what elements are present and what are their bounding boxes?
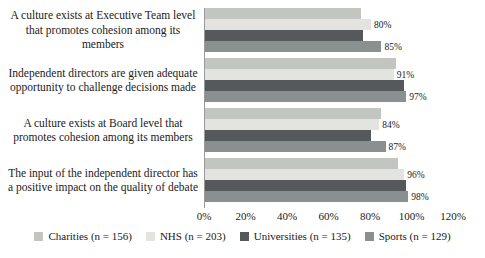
bar-charities <box>205 8 361 19</box>
data-label: 97% <box>409 92 426 102</box>
bar-nhs <box>205 119 379 130</box>
x-axis-tick: 40% <box>277 210 297 222</box>
bar-universities <box>205 80 404 91</box>
bar-row <box>205 108 454 119</box>
bar-group: 84%87% <box>205 108 454 152</box>
bar-universities <box>205 180 406 191</box>
bar-row <box>205 58 454 69</box>
bar-row: 84% <box>205 119 454 130</box>
x-axis: 0%20%40%60%80%100%120% <box>204 210 453 226</box>
bar-group: 96%98% <box>205 158 454 202</box>
x-axis-tick: 20% <box>235 210 255 222</box>
data-label: 96% <box>407 170 424 180</box>
bar-group: 80%85% <box>205 8 454 52</box>
legend-item: NHS (n = 203) <box>146 230 226 242</box>
bar-row <box>205 30 454 41</box>
category-axis: A culture exists at Executive Team level… <box>0 8 204 208</box>
bar-sports <box>205 191 408 202</box>
data-label: 91% <box>397 70 414 80</box>
legend-item: Charities (n = 156) <box>34 230 132 242</box>
bar-row: 96% <box>205 169 454 180</box>
bar-universities <box>205 130 371 141</box>
data-label: 98% <box>411 192 428 202</box>
bar-row <box>205 158 454 169</box>
legend: Charities (n = 156)NHS (n = 203)Universi… <box>0 230 485 242</box>
x-axis-tick: 60% <box>318 210 338 222</box>
bar-chart: A culture exists at Executive Team level… <box>0 0 485 258</box>
category-label: A culture exists at Executive Team level… <box>0 8 204 52</box>
plot-area: 80%85%91%97%84%87%96%98% <box>204 8 454 208</box>
data-label: 87% <box>389 142 406 152</box>
category-label: The input of the independent director ha… <box>0 158 204 202</box>
legend-label: Sports (n = 129) <box>379 230 451 242</box>
bar-row <box>205 80 454 91</box>
data-label: 80% <box>374 20 391 30</box>
x-axis-tick: 0% <box>197 210 212 222</box>
legend-swatch-icon <box>34 232 43 241</box>
legend-item: Universities (n = 135) <box>240 230 351 242</box>
x-axis-tick: 100% <box>399 210 425 222</box>
legend-label: NHS (n = 203) <box>160 230 226 242</box>
bar-universities <box>205 30 363 41</box>
data-label: 84% <box>382 120 399 130</box>
bar-row: 80% <box>205 19 454 30</box>
category-label: A culture exists at Board level that pro… <box>0 108 204 152</box>
bar-row: 87% <box>205 141 454 152</box>
legend-swatch-icon <box>240 232 249 241</box>
x-axis-tick: 80% <box>360 210 380 222</box>
bar-row: 91% <box>205 69 454 80</box>
legend-label: Charities (n = 156) <box>48 230 132 242</box>
bar-row: 85% <box>205 41 454 52</box>
bar-row <box>205 180 454 191</box>
bar-sports <box>205 41 381 52</box>
bar-nhs <box>205 69 394 80</box>
bar-sports <box>205 141 386 152</box>
plot-grid: A culture exists at Executive Team level… <box>0 0 485 208</box>
legend-swatch-icon <box>365 232 374 241</box>
category-label: Independent directors are given adequate… <box>0 58 204 102</box>
bar-nhs <box>205 19 371 30</box>
bar-row <box>205 8 454 19</box>
bar-row: 97% <box>205 91 454 102</box>
bar-nhs <box>205 169 404 180</box>
x-axis-tick: 120% <box>440 210 466 222</box>
legend-swatch-icon <box>146 232 155 241</box>
data-label: 85% <box>384 42 401 52</box>
bar-sports <box>205 91 406 102</box>
bar-group: 91%97% <box>205 58 454 102</box>
bar-row <box>205 130 454 141</box>
legend-label: Universities (n = 135) <box>254 230 351 242</box>
bar-charities <box>205 58 396 69</box>
bar-charities <box>205 158 398 169</box>
bar-row: 98% <box>205 191 454 202</box>
bar-charities <box>205 108 381 119</box>
legend-item: Sports (n = 129) <box>365 230 451 242</box>
